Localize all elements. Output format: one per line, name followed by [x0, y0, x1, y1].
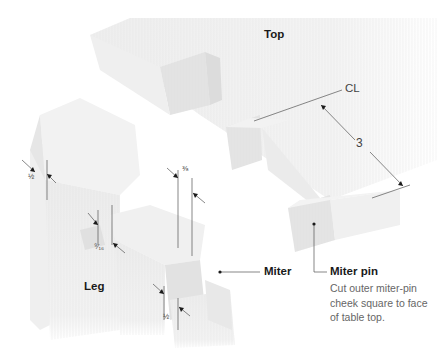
miter-leader-dot [218, 270, 221, 273]
label-miter-pin: Miter pin [330, 265, 378, 277]
label-slot-width: ⁹⁄₁₆ [94, 242, 104, 251]
label-pin-offset-bottom: ½ [163, 312, 169, 321]
label-centerline: CL [345, 82, 360, 94]
joinery-diagram: Top CL 3 ½ ⁹⁄₁₆ ⅜ ½ Leg Miter Miter pin … [0, 0, 437, 348]
label-miter: Miter [264, 265, 291, 277]
label-leg-side-thickness: ½ [28, 172, 34, 181]
label-top: Top [264, 28, 284, 40]
miter-pin-note-line-2: cheek square to face [330, 296, 427, 311]
label-pin-spacing: 3 [356, 136, 363, 150]
miter-pin-note-line-1: Cut outer miter-pin [330, 281, 427, 296]
miter-pin-leader-dot [312, 222, 315, 225]
label-pin-offset-top: ⅜ [182, 164, 188, 173]
miter-pin-note-line-3: of table top. [330, 310, 427, 325]
leg [30, 98, 235, 348]
miter-pin-note: Cut outer miter-pin cheek square to face… [330, 281, 427, 325]
label-leg: Leg [84, 280, 104, 292]
